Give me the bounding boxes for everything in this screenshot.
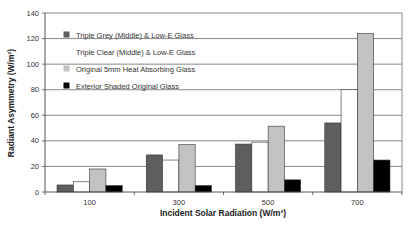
- bar: [106, 186, 122, 192]
- bar: [90, 169, 106, 192]
- x-axis-title: Incident Solar Radiation (W/m²): [160, 208, 286, 218]
- bar: [73, 182, 89, 192]
- legend-swatch: [64, 83, 69, 88]
- bars: [57, 33, 390, 192]
- legend-label: Exterior Shaded Original Glass: [76, 82, 179, 91]
- legend-swatch: [64, 32, 69, 37]
- bar: [252, 142, 268, 192]
- y-axis-title: Radiant Asymmetry (W/m²): [6, 49, 16, 157]
- x-tick-label: 700: [351, 198, 364, 207]
- y-tick-label: 120: [26, 34, 39, 43]
- x-tick-label: 100: [83, 198, 96, 207]
- bar: [236, 144, 252, 192]
- bar: [195, 186, 211, 192]
- bar: [357, 33, 373, 192]
- legend-label: Triple Grey (Middle) & Low-E Glass: [76, 31, 194, 40]
- legend-label: Original 5mm Heat Absorbing Glass: [76, 65, 195, 74]
- bar: [284, 180, 300, 192]
- x-axis-ticks: 100300500700: [45, 192, 402, 207]
- legend-swatch: [64, 49, 69, 54]
- y-tick-label: 0: [35, 188, 39, 197]
- y-tick-label: 80: [31, 85, 39, 94]
- bar: [179, 145, 195, 192]
- x-tick-label: 300: [173, 198, 186, 207]
- y-tick-label: 100: [26, 60, 39, 69]
- y-tick-label: 20: [31, 162, 39, 171]
- bar: [57, 185, 73, 192]
- bar-chart: 020406080100120140 100300500700 Incident…: [0, 0, 418, 234]
- bar: [268, 126, 284, 192]
- bar: [146, 155, 162, 192]
- y-tick-label: 40: [31, 136, 39, 145]
- legend: Triple Grey (Middle) & Low-E GlassTriple…: [64, 31, 196, 91]
- x-tick-label: 500: [262, 198, 275, 207]
- y-tick-label: 60: [31, 111, 39, 120]
- bar: [163, 160, 179, 192]
- y-tick-label: 140: [26, 9, 39, 18]
- legend-swatch: [64, 66, 69, 71]
- legend-label: Triple Clear (Middle) & Low-E Glass: [76, 48, 196, 57]
- bar: [325, 123, 341, 192]
- y-axis-ticks: 020406080100120140: [26, 9, 45, 197]
- bar: [341, 90, 357, 192]
- bar: [374, 160, 390, 192]
